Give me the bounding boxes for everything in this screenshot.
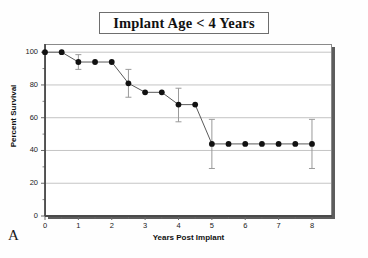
y-tick-label: 100 bbox=[16, 48, 38, 56]
error-bars bbox=[75, 55, 315, 169]
x-axis-label: Years Post Implant bbox=[45, 234, 332, 242]
y-tick-label: 40 bbox=[16, 146, 38, 154]
y-tick-label: 0 bbox=[16, 212, 38, 220]
y-axis-label: Percent Survival bbox=[10, 76, 18, 156]
gridlines bbox=[46, 52, 331, 183]
y-axis-ticks bbox=[41, 44, 45, 216]
x-tick-label: 6 bbox=[237, 222, 253, 230]
x-tick-label: 5 bbox=[204, 222, 220, 230]
y-tick-label: 80 bbox=[16, 81, 38, 89]
x-axis-ticks bbox=[45, 216, 332, 220]
panel-letter-label: A bbox=[8, 228, 19, 243]
y-tick-label: 20 bbox=[16, 179, 38, 187]
x-tick-label: 8 bbox=[304, 222, 320, 230]
x-tick-label: 7 bbox=[271, 222, 287, 230]
x-tick-label: 1 bbox=[70, 222, 86, 230]
x-tick-label: 0 bbox=[37, 222, 53, 230]
x-tick-label: 2 bbox=[104, 222, 120, 230]
y-tick-label: 60 bbox=[16, 114, 38, 122]
figure-panel: Implant Age < 4 Years 020406080100 01234… bbox=[0, 0, 368, 258]
x-tick-label: 4 bbox=[170, 222, 186, 230]
x-tick-label: 3 bbox=[137, 222, 153, 230]
plot-canvas bbox=[0, 0, 368, 258]
